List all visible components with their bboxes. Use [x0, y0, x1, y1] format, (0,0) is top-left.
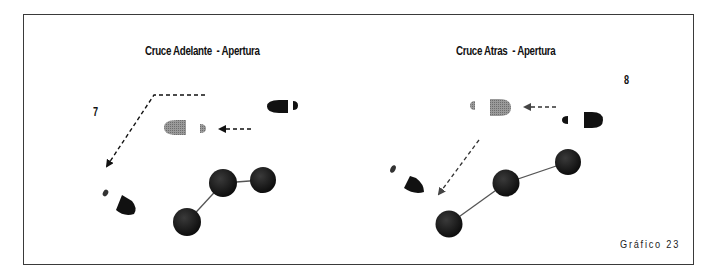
- dashed-movement-arrow-icon: [107, 95, 205, 166]
- right-panel: [389, 99, 603, 238]
- footprint-intermediate-icon: [470, 99, 511, 116]
- dashed-diagonal-arrow-icon: [439, 140, 479, 194]
- footprint-intermediate-icon: [164, 120, 206, 135]
- player-ball-icon: [173, 208, 201, 236]
- footprint-end-icon: [389, 164, 424, 193]
- player-ball-icon: [209, 169, 237, 197]
- player-ball-icon: [555, 149, 581, 175]
- left-panel: [102, 95, 298, 236]
- footprint-start-icon: [267, 100, 298, 113]
- diagram-canvas: [0, 0, 715, 278]
- player-ball-icon: [250, 167, 276, 193]
- player-ball-icon: [493, 170, 520, 197]
- footprint-end-icon: [102, 189, 136, 215]
- footprint-start-icon: [562, 112, 603, 128]
- player-ball-icon: [436, 211, 463, 238]
